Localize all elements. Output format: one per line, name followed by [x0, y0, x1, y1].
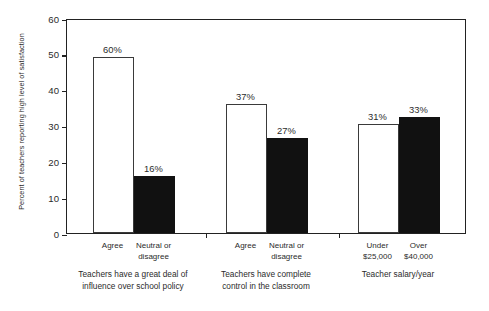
bar-value-label: 60%: [86, 44, 139, 55]
bar-category-label: Over $40,000: [388, 241, 449, 262]
group-caption: Teacher salary/year: [313, 269, 483, 281]
y-axis-tick-label: 20: [34, 157, 59, 168]
bar-category-label: Neutral or disagree: [256, 241, 317, 262]
bar-value-label: 27%: [260, 125, 313, 136]
x-axis-group-separator-tick: [206, 233, 207, 238]
bar: [134, 176, 175, 233]
y-axis-tick-label: 10: [34, 193, 59, 204]
y-axis-tick-label: 30: [34, 121, 59, 132]
y-axis-tick-label: 60: [34, 14, 59, 25]
y-axis-tick-label: 0: [34, 229, 59, 240]
bar-value-label: 37%: [219, 91, 272, 102]
bar: [267, 138, 308, 233]
bar-value-label: 33%: [392, 104, 445, 115]
y-axis-tick-mark: [62, 91, 67, 92]
bar: [358, 124, 399, 233]
y-axis-tick-mark: [62, 127, 67, 128]
y-axis-tick-mark: [62, 235, 67, 236]
x-axis-group-separator-tick: [339, 233, 340, 238]
bar: [226, 104, 267, 233]
bar: [93, 57, 134, 233]
bar-value-label: 16%: [127, 163, 180, 174]
y-axis-tick-mark: [62, 199, 67, 200]
y-axis-tick-label: 50: [34, 49, 59, 60]
bar-category-label: Neutral or disagree: [123, 241, 184, 262]
chart-figure: Percent of teachers reporting high level…: [0, 0, 489, 311]
y-axis-tick-mark: [62, 163, 67, 164]
y-axis-tick-mark: [62, 55, 67, 56]
bar: [399, 117, 440, 233]
y-axis-tick-mark: [62, 20, 67, 21]
y-axis-tick-label: 40: [34, 85, 59, 96]
y-axis-title: Percent of teachers reporting high level…: [17, 4, 26, 240]
